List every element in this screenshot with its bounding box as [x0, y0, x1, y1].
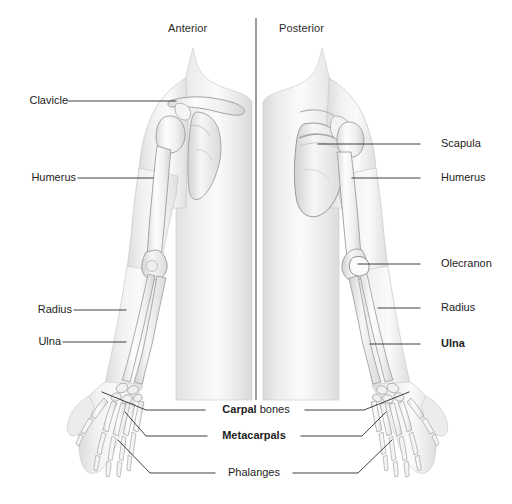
label-scapula: Scapula	[441, 137, 481, 149]
label-phalanges: Phalanges	[216, 466, 292, 478]
label-carpal-bold: Carpal	[222, 403, 256, 415]
label-radius-posterior: Radius	[441, 301, 475, 313]
label-olecranon: Olecranon	[441, 257, 492, 269]
label-radius-anterior: Radius	[18, 303, 72, 315]
label-clavicle: Clavicle	[18, 94, 68, 106]
label-humerus-anterior: Humerus	[18, 171, 76, 183]
anatomy-diagram: Anterior Posterior Clavicle Humerus Radi…	[0, 0, 512, 504]
label-metacarpals: Metacarpals	[208, 429, 300, 441]
view-heading-anterior: Anterior	[168, 22, 207, 34]
label-ulna-posterior: Ulna	[441, 337, 465, 349]
label-ulna-anterior: Ulna	[18, 335, 61, 347]
label-carpal-regular: bones	[257, 403, 290, 415]
label-humerus-posterior: Humerus	[441, 171, 486, 183]
view-heading-posterior: Posterior	[279, 22, 324, 34]
label-carpal-bones: Carpal bones	[206, 403, 306, 415]
